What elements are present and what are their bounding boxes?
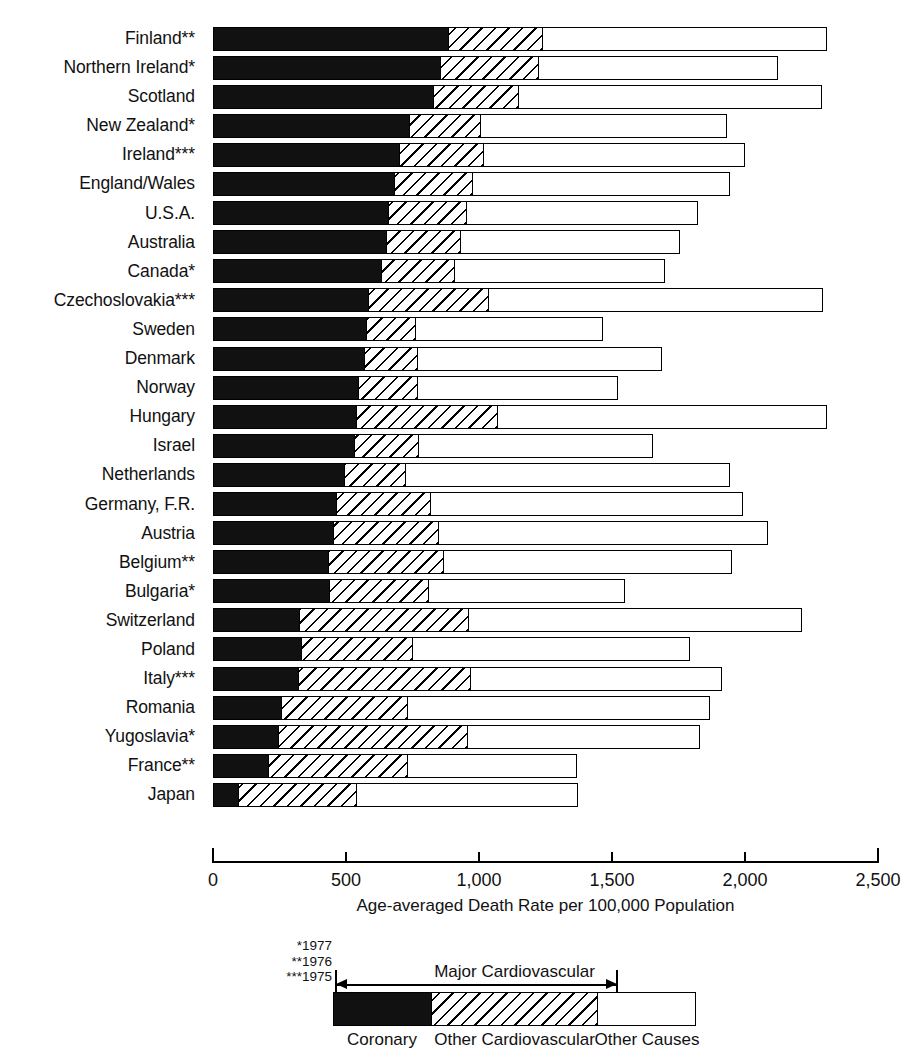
category-label-column: Finland**Northern Ireland*ScotlandNew Ze… (0, 24, 205, 810)
stacked-bar (213, 288, 823, 312)
bar-row (213, 577, 913, 606)
bar-segment-other-causes (418, 348, 661, 370)
bar-row (213, 373, 913, 402)
x-axis-line (213, 861, 878, 863)
bar-segment-other-causes (539, 57, 777, 79)
legend-swatch-other-causes (598, 993, 695, 1025)
bar-row (213, 490, 913, 519)
bar-segment-coronary (214, 231, 386, 253)
stacked-bar (213, 696, 710, 720)
bar-segment-coronary (214, 289, 368, 311)
bar-segment-other-causes (519, 86, 821, 108)
stacked-bar (213, 85, 822, 109)
legend-swatch-coronary (334, 993, 431, 1025)
bar-segment-other-cardiovascular (299, 609, 469, 631)
category-label: Canada* (0, 257, 205, 286)
bar-segment-coronary (214, 784, 238, 806)
stacked-bar (213, 492, 743, 516)
bar-segment-other-causes (444, 551, 731, 573)
x-tick-mark (877, 848, 879, 863)
category-label: Czechoslovakia*** (0, 286, 205, 315)
bar-segment-coronary (214, 377, 358, 399)
bar-segment-coronary (214, 202, 388, 224)
bar-segment-coronary (214, 28, 448, 50)
category-label: Sweden (0, 315, 205, 344)
stacked-bar (213, 725, 700, 749)
stacked-bar (213, 754, 577, 778)
bar-segment-coronary (214, 144, 399, 166)
category-label: Israel (0, 431, 205, 460)
bar-segment-other-cardiovascular (238, 784, 357, 806)
legend-swatch-bar (333, 992, 696, 1026)
legend-brace: Major Cardiovascular (333, 962, 696, 992)
bar-segment-other-causes (357, 784, 577, 806)
bar-segment-coronary (214, 609, 299, 631)
bar-segment-other-cardiovascular (358, 377, 418, 399)
x-axis-title: Age-averaged Death Rate per 100,000 Popu… (213, 896, 878, 916)
bar-segment-other-causes (467, 202, 697, 224)
category-label: England/Wales (0, 169, 205, 198)
stacked-bar (213, 783, 578, 807)
stacked-bar (213, 56, 778, 80)
bar-row (213, 111, 913, 140)
category-label: Hungary (0, 402, 205, 431)
bar-row (213, 751, 913, 780)
bar-row (213, 169, 913, 198)
x-tick-label: 2,500 (855, 870, 900, 891)
stacked-bar (213, 637, 690, 661)
bar-segment-other-causes (439, 522, 767, 544)
stacked-bar (213, 317, 603, 341)
stacked-bar (213, 550, 732, 574)
category-label: Australia (0, 228, 205, 257)
bar-segment-coronary (214, 755, 268, 777)
bar-segment-other-causes (418, 377, 617, 399)
x-tick-mark (478, 852, 480, 863)
stacked-bar (213, 114, 727, 138)
bar-segment-coronary (214, 86, 433, 108)
bar-segment-other-causes (469, 609, 801, 631)
bar-segment-other-cardiovascular (366, 318, 416, 340)
x-tick-mark (345, 852, 347, 863)
x-tick-label: 1,500 (589, 870, 634, 891)
x-tick-mark (744, 852, 746, 863)
legend-brace-arrow (335, 979, 618, 990)
bar-segment-other-causes (484, 144, 744, 166)
bar-segment-other-cardiovascular (433, 86, 519, 108)
stacked-bar (213, 201, 698, 225)
x-axis: 05001,0001,5002,0002,500 (213, 861, 878, 862)
category-label: Italy*** (0, 664, 205, 693)
bar-row (213, 344, 913, 373)
footnotes: *1977 **1976 ***1975 (212, 938, 332, 985)
bar-segment-coronary (214, 435, 354, 457)
stacked-bar (213, 27, 827, 51)
bar-segment-other-cardiovascular (354, 435, 419, 457)
category-label: Japan (0, 780, 205, 809)
category-label: Poland (0, 635, 205, 664)
bar-segment-other-cardiovascular (328, 551, 444, 573)
bar-row (213, 693, 913, 722)
bar-row (213, 431, 913, 460)
bar-segment-other-causes (429, 580, 624, 602)
bar-segment-other-cardiovascular (301, 638, 413, 660)
bar-segment-coronary (214, 697, 281, 719)
bar-segment-other-cardiovascular (409, 115, 481, 137)
stacked-bar (213, 347, 662, 371)
category-label: Belgium** (0, 548, 205, 577)
category-label: Netherlands (0, 460, 205, 489)
bars-plot-area (213, 24, 913, 810)
category-label: France** (0, 751, 205, 780)
bar-row (213, 286, 913, 315)
x-tick-mark (611, 852, 613, 863)
stacked-bar (213, 143, 745, 167)
bar-segment-other-cardiovascular (386, 231, 461, 253)
bar-segment-other-cardiovascular (364, 348, 418, 370)
bar-row (213, 199, 913, 228)
bar-segment-other-causes (498, 406, 826, 428)
legend-label-other-cardiovascular: Other Cardiovascular (434, 1030, 595, 1050)
legend: Major Cardiovascular Coronary Other Card… (333, 962, 696, 1056)
bar-segment-other-causes (455, 260, 664, 282)
legend-label-coronary: Coronary (347, 1030, 417, 1050)
x-tick-label: 2,000 (722, 870, 767, 891)
category-label: Switzerland (0, 606, 205, 635)
bar-row (213, 780, 913, 809)
